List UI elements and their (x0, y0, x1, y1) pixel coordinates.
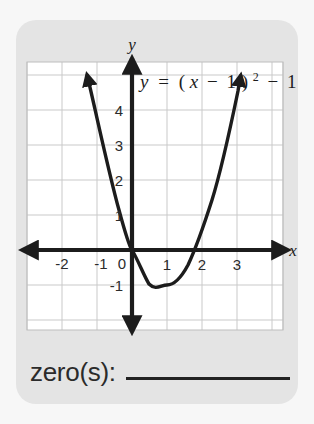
y-tick-label-2: 2 (115, 172, 123, 189)
equation-lhs: y (138, 71, 149, 92)
equation-variable: x (189, 71, 199, 92)
graph-region: -2 -1 0 1 2 3 4 3 2 1 -1 y x y = ( x − (16, 20, 298, 340)
y-tick-label-4: 4 (115, 102, 123, 119)
equation-inner-minus: − (207, 71, 218, 92)
x-tick-label-2: 2 (198, 256, 206, 273)
y-axis-label: y (126, 35, 136, 54)
answer-row: zero(s): (30, 350, 294, 394)
equation-outer-one: 1 (287, 71, 297, 92)
plot-background (27, 62, 283, 330)
y-tick-label-3: 3 (115, 137, 123, 154)
worksheet-card: -2 -1 0 1 2 3 4 3 2 1 -1 y x y = ( x − (16, 20, 298, 404)
equation-close-paren: ) (242, 71, 248, 93)
equation-outer-minus: − (267, 71, 278, 92)
x-tick-label-3: 3 (233, 256, 241, 273)
y-tick-label--1: -1 (110, 277, 123, 294)
equation-inner-one: 1 (226, 71, 236, 92)
equation-exponent: 2 (253, 70, 259, 84)
y-tick-label-1: 1 (115, 207, 123, 224)
equation-equals: = (158, 71, 169, 92)
equation-open-paren: ( (179, 71, 185, 93)
x-tick-label-0: 0 (118, 255, 126, 272)
answer-blank-line[interactable] (126, 377, 290, 380)
x-axis-label: x (288, 241, 297, 260)
x-tick-label-1: 1 (163, 256, 171, 273)
coordinate-plane-graph: -2 -1 0 1 2 3 4 3 2 1 -1 y x y = ( x − (16, 20, 298, 340)
zeros-prompt-label: zero(s): (30, 357, 116, 388)
x-tick-label--2: -2 (55, 255, 68, 272)
x-tick-label--1: -1 (94, 255, 107, 272)
